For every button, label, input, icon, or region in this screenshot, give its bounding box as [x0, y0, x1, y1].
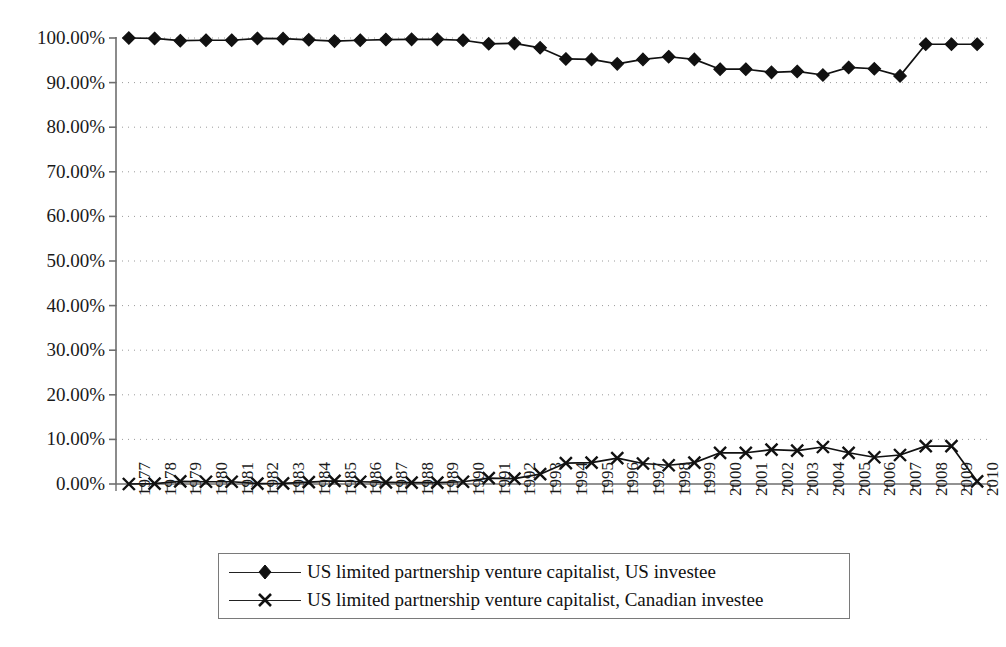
x-tick-label-2009: 2009 — [958, 462, 975, 496]
x-tick-label-2006: 2006 — [881, 462, 898, 496]
y-tick-label-30: 30.00% — [46, 340, 105, 359]
marker-diamond-0-20 — [637, 53, 649, 65]
marker-diamond-0-7 — [303, 34, 315, 46]
x-tick-label-1994: 1994 — [573, 462, 590, 496]
y-tick-label-100: 100.00% — [37, 28, 105, 47]
legend-label-us-investee: US limited partnership venture capitalis… — [301, 561, 716, 583]
y-tick-label-60: 60.00% — [46, 206, 105, 225]
marker-diamond-0-3 — [200, 34, 212, 46]
x-tick-label-2003: 2003 — [804, 462, 821, 496]
marker-diamond-0-8 — [328, 35, 340, 47]
marker-diamond-0-29 — [868, 63, 880, 75]
marker-diamond-0-22 — [688, 53, 700, 65]
marker-diamond-0-10 — [380, 33, 392, 45]
x-tick-label-1978: 1978 — [162, 462, 179, 496]
x-tick-label-1985: 1985 — [342, 462, 359, 496]
marker-diamond-0-5 — [251, 32, 263, 44]
x-tick-label-2000: 2000 — [727, 462, 744, 496]
legend-marker-x-icon — [229, 589, 301, 611]
marker-diamond-0-18 — [585, 53, 597, 65]
y-tick-label-20: 20.00% — [46, 385, 105, 404]
marker-diamond-0-19 — [611, 58, 623, 70]
marker-diamond-0-6 — [277, 32, 289, 44]
x-tick-label-1998: 1998 — [676, 462, 693, 496]
x-tick-label-1977: 1977 — [136, 462, 153, 496]
y-tick-label-0: 0.00% — [56, 474, 105, 493]
marker-diamond-0-17 — [560, 53, 572, 65]
y-tick-label-10: 10.00% — [46, 429, 105, 448]
chart-legend: US limited partnership venture capitalis… — [218, 553, 850, 619]
x-tick-label-2007: 2007 — [907, 462, 924, 496]
marker-diamond-0-2 — [174, 34, 186, 46]
x-tick-label-2004: 2004 — [830, 462, 847, 496]
marker-diamond-0-12 — [431, 33, 443, 45]
x-tick-label-1983: 1983 — [290, 462, 307, 496]
marker-diamond-0-16 — [534, 42, 546, 54]
x-tick-label-1990: 1990 — [470, 462, 487, 496]
chart-plot-svg — [0, 0, 1006, 647]
marker-diamond-0-25 — [765, 66, 777, 78]
series-lines-group — [129, 38, 977, 484]
x-tick-label-1987: 1987 — [393, 462, 410, 496]
y-tick-label-50: 50.00% — [46, 251, 105, 270]
marker-diamond-0-9 — [354, 34, 366, 46]
x-tick-label-2008: 2008 — [933, 462, 950, 496]
marker-diamond-0-13 — [457, 34, 469, 46]
x-tick-label-1991: 1991 — [496, 462, 513, 496]
marker-diamond-0-26 — [791, 65, 803, 77]
y-tick-label-80: 80.00% — [46, 117, 105, 136]
marker-diamond-0-28 — [842, 61, 854, 73]
marker-diamond-0-32 — [945, 38, 957, 50]
x-tick-label-1979: 1979 — [187, 462, 204, 496]
chart-figure: 0.00%10.00%20.00%30.00%40.00%50.00%60.00… — [0, 0, 1006, 647]
marker-diamond-0-1 — [148, 32, 160, 44]
marker-diamond-0-21 — [662, 51, 674, 63]
marker-diamond-0-14 — [483, 38, 495, 50]
x-tick-label-1986: 1986 — [367, 462, 384, 496]
marker-diamond-0-23 — [714, 63, 726, 75]
x-tick-label-1996: 1996 — [624, 462, 641, 496]
y-tick-label-70: 70.00% — [46, 162, 105, 181]
legend-label-canadian-investee: US limited partnership venture capitalis… — [301, 589, 763, 611]
marker-diamond-0-11 — [405, 33, 417, 45]
x-tick-label-1992: 1992 — [521, 462, 538, 496]
x-tick-label-2002: 2002 — [779, 462, 796, 496]
x-tick-label-2005: 2005 — [856, 462, 873, 496]
x-tick-label-1995: 1995 — [599, 462, 616, 496]
legend-entry-us-investee[interactable]: US limited partnership venture capitalis… — [229, 558, 716, 586]
x-tick-label-1981: 1981 — [239, 462, 256, 496]
x-tick-label-1980: 1980 — [213, 462, 230, 496]
x-tick-label-1988: 1988 — [419, 462, 436, 496]
marker-diamond-0-27 — [817, 69, 829, 81]
x-tick-label-1982: 1982 — [264, 462, 281, 496]
x-tick-label-1989: 1989 — [444, 462, 461, 496]
x-tick-label-2010: 2010 — [984, 462, 1001, 496]
legend-marker-diamond-icon — [229, 561, 301, 583]
x-tick-label-1997: 1997 — [650, 462, 667, 496]
marker-diamond-0-0 — [123, 32, 135, 44]
y-tick-label-40: 40.00% — [46, 296, 105, 315]
marker-diamond-0-15 — [508, 37, 520, 49]
x-tick-label-1993: 1993 — [547, 462, 564, 496]
marker-diamond-0-24 — [740, 63, 752, 75]
y-tick-label-90: 90.00% — [46, 73, 105, 92]
legend-entry-canadian-investee[interactable]: US limited partnership venture capitalis… — [229, 586, 763, 614]
marker-diamond-0-4 — [225, 34, 237, 46]
marker-diamond-0-33 — [971, 38, 983, 50]
x-tick-label-2001: 2001 — [753, 462, 770, 496]
axes-group — [109, 37, 990, 484]
x-tick-label-1984: 1984 — [316, 462, 333, 496]
gridlines-group — [116, 38, 990, 439]
x-tick-label-1999: 1999 — [701, 462, 718, 496]
